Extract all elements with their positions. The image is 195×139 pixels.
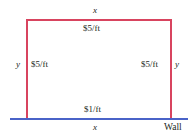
wall-segment-bottom [10,118,188,120]
fence-segment-top [26,19,172,21]
label-wall: Wall [164,123,182,133]
label-bottom-dimension: x [93,123,97,132]
label-left-dimension: y [16,60,20,69]
label-right-dimension: y [175,60,179,69]
label-top-cost: $5/ft [83,24,100,33]
fence-segment-right [170,19,172,120]
label-top-dimension: x [93,6,97,15]
label-bottom-cost: $1/ft [84,105,101,114]
label-right-cost: $5/ft [141,60,158,69]
fence-segment-left [26,19,28,120]
label-left-cost: $5/ft [31,60,48,69]
fencing-cost-diagram: x $5/ft y $5/ft $5/ft y $1/ft x Wall [0,0,195,139]
